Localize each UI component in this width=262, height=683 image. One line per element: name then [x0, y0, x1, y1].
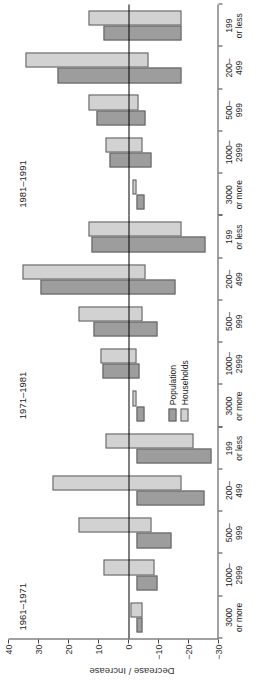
- legend-label: Households: [179, 360, 189, 405]
- category-label-line: 200–: [224, 469, 234, 511]
- y-tick-label: −10: [153, 644, 163, 659]
- chart-canvas: Decrease / Increase 403020100−10−20−30 1…: [0, 0, 262, 683]
- category-tick-mark: [218, 88, 222, 89]
- panel-group: 1961–19713000or more1000–2999500–999200–…: [0, 4, 262, 638]
- y-tick-mark: [8, 639, 9, 643]
- bar-population: [136, 448, 211, 463]
- y-axis-ticks: 403020100−10−20−30: [0, 639, 262, 665]
- bar-population: [136, 532, 171, 547]
- bar-households: [132, 390, 137, 405]
- category-label-line: 1000–: [224, 131, 234, 173]
- category-tick-mark: [218, 214, 222, 215]
- category-group: [16, 596, 218, 638]
- category-label-line: or less: [234, 427, 244, 469]
- category-group: [16, 300, 218, 342]
- bar-population: [40, 279, 175, 294]
- bar-households: [78, 306, 143, 321]
- category-tick-mark: [218, 341, 222, 342]
- category-label-line: 199: [224, 215, 234, 257]
- category-label-line: or less: [234, 4, 244, 46]
- category-label-line: 2999: [234, 131, 244, 173]
- category-label: 199or less: [224, 427, 243, 469]
- bar-households: [132, 179, 137, 194]
- category-label-line: 500–: [224, 89, 234, 131]
- category-tick-mark: [218, 172, 222, 173]
- category-label-line: or more: [234, 596, 244, 638]
- category-label-line: 1000–: [224, 553, 234, 595]
- category-axis: 3000or more1000–2999500–999200–499199or …: [218, 215, 262, 426]
- y-tick-mark: [158, 639, 159, 643]
- y-tick-label: 40: [3, 644, 13, 654]
- legend-label: Population: [167, 365, 177, 405]
- y-tick-mark: [68, 639, 69, 643]
- category-group: [16, 553, 218, 595]
- category-label-line: 500–: [224, 300, 234, 342]
- category-label-line: 3000: [224, 596, 234, 638]
- category-group: [16, 46, 218, 88]
- legend-swatch-households: [180, 408, 188, 421]
- category-group: [16, 173, 218, 215]
- category-label-line: 500–: [224, 511, 234, 553]
- y-tick-mark: [218, 639, 219, 643]
- y-tick-label: −30: [213, 644, 223, 659]
- bar-households: [52, 475, 181, 490]
- panel-1971-1981: 1971–19813000or more1000–2999500–999200–…: [0, 215, 262, 426]
- category-label-line: or more: [234, 173, 244, 215]
- bar-households: [105, 137, 143, 152]
- y-tick-mark: [38, 639, 39, 643]
- category-label-line: or more: [234, 384, 244, 426]
- category-tick-mark: [218, 426, 222, 427]
- bar-households: [22, 264, 145, 279]
- category-label-line: 3000: [224, 173, 234, 215]
- category-tick-mark: [218, 130, 222, 131]
- y-tick-label: 0: [123, 644, 133, 649]
- category-label-line: 499: [234, 469, 244, 511]
- category-label: 500–999: [224, 511, 243, 553]
- category-label: 200–499: [224, 46, 243, 88]
- category-tick-mark: [218, 257, 222, 258]
- legend-item[interactable]: Households: [179, 360, 189, 421]
- category-group: [16, 511, 218, 553]
- zero-line: [128, 215, 129, 426]
- bar-households: [130, 602, 142, 617]
- bar-population: [96, 110, 146, 125]
- zero-line: [128, 427, 129, 638]
- category-label: 199or less: [224, 4, 243, 46]
- legend-swatch-population: [168, 408, 176, 421]
- category-group: [16, 427, 218, 469]
- bar-households: [88, 10, 181, 25]
- category-group: [16, 215, 218, 257]
- category-label: 200–499: [224, 469, 243, 511]
- category-label-line: 200–: [224, 46, 234, 88]
- bar-population: [109, 152, 151, 167]
- category-label: 199or less: [224, 215, 243, 257]
- y-tick-mark: [98, 639, 99, 643]
- category-axis: 3000or more1000–2999500–999200–499199or …: [218, 4, 262, 215]
- category-label-line: 200–: [224, 258, 234, 300]
- legend-item[interactable]: Population: [167, 360, 177, 421]
- category-group: [16, 469, 218, 511]
- category-axis: 3000or more1000–2999500–999200–499199or …: [218, 427, 262, 638]
- category-label-line: 999: [234, 511, 244, 553]
- category-label: 3000or more: [224, 173, 243, 215]
- category-label: 3000or more: [224, 596, 243, 638]
- category-label: 500–999: [224, 89, 243, 131]
- category-label-line: 499: [234, 258, 244, 300]
- bar-population: [91, 237, 205, 252]
- bar-population: [57, 67, 182, 82]
- category-group: [16, 131, 218, 173]
- panel-1981-1991: 1981–19913000or more1000–2999500–999200–…: [0, 4, 262, 215]
- bar-population: [93, 321, 158, 336]
- bar-population: [102, 363, 140, 378]
- category-label-line: or less: [234, 215, 244, 257]
- category-label-line: 999: [234, 89, 244, 131]
- bar-population: [103, 25, 181, 40]
- category-label: 200–499: [224, 258, 243, 300]
- y-axis-title: Decrease / Increase: [0, 665, 262, 679]
- category-tick-mark: [218, 595, 222, 596]
- category-tick-mark: [218, 510, 222, 511]
- bar-households: [88, 221, 181, 236]
- category-tick-mark: [218, 637, 222, 638]
- bar-households: [100, 348, 136, 363]
- category-label-line: 1000–: [224, 342, 234, 384]
